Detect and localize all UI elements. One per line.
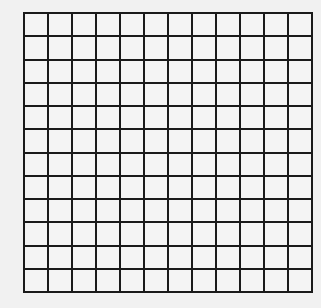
- square-grid: [23, 12, 314, 294]
- grid-lines: [23, 12, 314, 294]
